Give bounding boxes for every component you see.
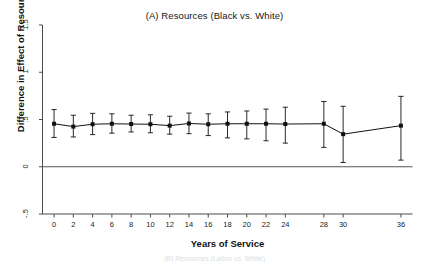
- x-tick-label: 22: [256, 220, 276, 229]
- data-point-marker[interactable]: [110, 122, 114, 126]
- data-point-marker[interactable]: [129, 122, 133, 126]
- x-tick-label: 12: [160, 220, 180, 229]
- data-point-marker[interactable]: [91, 122, 95, 126]
- data-point-marker[interactable]: [283, 122, 287, 126]
- data-point-marker[interactable]: [187, 121, 191, 125]
- data-point-marker[interactable]: [168, 124, 172, 128]
- y-axis-label: Difference in Effect of Resources: [15, 0, 26, 138]
- data-point-marker[interactable]: [52, 122, 56, 126]
- x-tick-label: 14: [179, 220, 199, 229]
- x-tick-label: 4: [83, 220, 103, 229]
- y-tick-label: -.5: [20, 202, 29, 226]
- data-point-marker[interactable]: [71, 125, 75, 129]
- x-tick-label: 28: [314, 220, 334, 229]
- chart-figure: (A) Resources (Black vs. White) -.50.511…: [0, 0, 429, 262]
- data-point-marker[interactable]: [399, 124, 403, 128]
- series-group: [51, 96, 403, 162]
- data-point-marker[interactable]: [206, 122, 210, 126]
- data-point-marker[interactable]: [341, 132, 345, 136]
- x-axis-label: Years of Service: [42, 238, 413, 249]
- data-point-marker[interactable]: [322, 122, 326, 126]
- x-tick-label: 0: [44, 220, 64, 229]
- footer-ghost-caption: (B) Resources (Latino vs. White): [0, 255, 429, 262]
- x-tick-label: 16: [198, 220, 218, 229]
- x-tick-label: 6: [102, 220, 122, 229]
- data-point-marker[interactable]: [226, 122, 230, 126]
- axes-group: [39, 25, 413, 218]
- x-tick-label: 8: [121, 220, 141, 229]
- data-point-marker[interactable]: [148, 122, 152, 126]
- y-tick-label: 0: [20, 154, 29, 178]
- x-tick-label: 20: [237, 220, 257, 229]
- x-tick-label: 36: [391, 220, 411, 229]
- x-tick-label: 10: [140, 220, 160, 229]
- x-tick-label: 30: [333, 220, 353, 229]
- x-tick-label: 24: [275, 220, 295, 229]
- x-tick-label: 18: [218, 220, 238, 229]
- data-point-marker[interactable]: [245, 122, 249, 126]
- data-point-marker[interactable]: [264, 122, 268, 126]
- x-tick-label: 2: [63, 220, 83, 229]
